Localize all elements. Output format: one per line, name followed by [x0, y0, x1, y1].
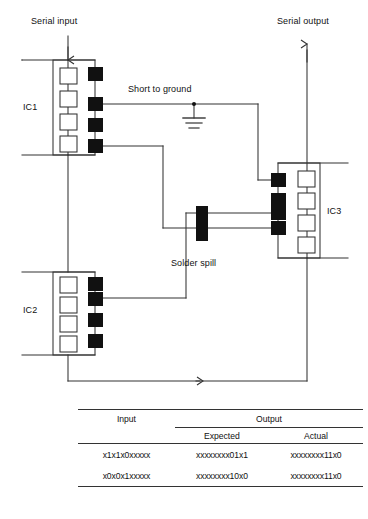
header-actual: Actual [269, 428, 363, 444]
ic2-pad-3 [88, 313, 103, 327]
ground-symbol [183, 104, 205, 128]
header-expected: Expected [175, 428, 269, 444]
ic2-stages [60, 277, 77, 352]
ic1-pad-1 [88, 67, 103, 81]
serial-output-label: Serial output [277, 16, 329, 26]
table-bottom-rule [78, 487, 363, 488]
ic3-label: IC3 [327, 206, 341, 216]
table-row: x0x0x1xxxxx xxxxxxxx10x0 xxxxxxxx11x0 [78, 465, 363, 487]
cell-input: x1x1x0xxxxx [78, 444, 175, 466]
ic2-pad-1 [88, 277, 103, 291]
serial-input-label: Serial input [31, 16, 77, 26]
results-table: Input Output Expected Actual x1x1x0xxxxx… [78, 409, 363, 487]
short-to-ground-net [103, 104, 271, 180]
cell-expected: xxxxxxxx10x0 [175, 465, 269, 487]
ic1-pad-4 [88, 139, 103, 153]
ic1-pad4-net [103, 146, 271, 228]
ic3-pads [271, 173, 286, 235]
cell-input: x0x0x1xxxxx [78, 465, 175, 487]
ic3-pad-4 [271, 221, 286, 235]
table-header-row: Input Output [78, 410, 363, 428]
ic1-pad-3 [88, 118, 103, 132]
header-input: Input [78, 410, 175, 428]
ic2-pad-2 [88, 292, 103, 306]
ic1-label: IC1 [23, 102, 37, 112]
bottom-return-net [68, 258, 307, 381]
ground-junction-dot [192, 102, 196, 106]
table-subheader-row: Expected Actual [78, 428, 363, 444]
ic3-pad-1 [271, 173, 286, 187]
solder-spill-label: Solder spill [171, 258, 216, 268]
table-row: x1x1x0xxxxx xxxxxxxx01x1 xxxxxxxx11x0 [78, 444, 363, 466]
ic2-label: IC2 [23, 305, 37, 315]
cell-actual: xxxxxxxx11x0 [269, 444, 363, 466]
cell-expected: xxxxxxxx01x1 [175, 444, 269, 466]
ic2-pad-4 [88, 334, 103, 348]
ic1-pad-2 [88, 97, 103, 111]
short-to-ground-label: Short to ground [128, 84, 192, 94]
solder-spill-bridge [196, 206, 208, 241]
ic3-pad-2 [271, 193, 286, 207]
ic2-pad2-net [103, 213, 271, 298]
ic3-pad-3 [271, 206, 286, 220]
header-output: Output [175, 410, 363, 428]
cell-actual: xxxxxxxx11x0 [269, 465, 363, 487]
header-spacer [78, 428, 175, 444]
ic1-pads [88, 67, 103, 153]
